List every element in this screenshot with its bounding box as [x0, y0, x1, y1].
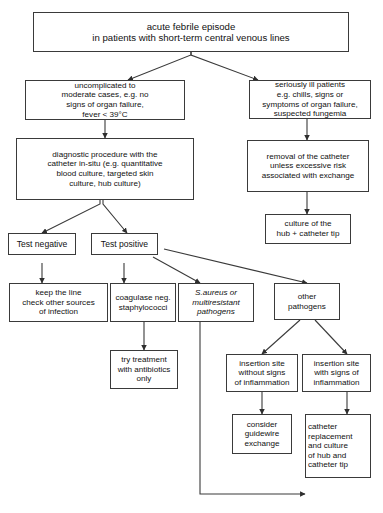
- node-consider-guidewire-exchange: consider guidewire exchange: [232, 414, 292, 454]
- node-uncomplicated-moderate: uncomplicated to moderate cases, e.g. no…: [25, 80, 185, 120]
- node-keep-the-line: keep the line check other sources of inf…: [9, 283, 108, 322]
- node-catheter-replacement-culture: catheter replacement and culture of hub …: [305, 414, 371, 478]
- node-test-positive: Test positive: [91, 233, 158, 255]
- node-insertion-site-with-inflammation: insertion site with signs of inflammatio…: [302, 354, 371, 392]
- node-catheter-removal: removal of the catheter unless excessive…: [247, 140, 369, 192]
- node-seriously-ill: seriously ill patients e.g. chills, sign…: [249, 80, 371, 119]
- node-other-pathogens: other pathogens: [274, 283, 340, 320]
- edge-diagnostic-testpositive: [103, 200, 127, 233]
- node-coagulase-negative-staph: coagulase neg. staphylococci: [110, 283, 176, 322]
- edge-testpositive-saureus: [153, 257, 200, 283]
- edge-saureus-replacement: [200, 322, 305, 494]
- edge-diagnostic-testnegative: [42, 200, 100, 233]
- edge-testpositive-otherpath: [164, 249, 307, 283]
- edge-root-uncomplicated: [128, 52, 191, 80]
- node-try-treatment-antibiotics: try treatment with antibiotics only: [110, 350, 178, 389]
- node-saureus-multiresistant: S.aureus or multiresistant pathogens: [178, 283, 254, 322]
- node-acute-febrile-episode: acute febrile episode in patients with s…: [33, 12, 349, 52]
- node-culture-hub-tip: culture of the hub + catheter tip: [265, 214, 351, 244]
- edge-root-seriouslyill: [191, 52, 258, 80]
- node-diagnostic-procedure: diagnostic procedure with the catheter i…: [16, 138, 194, 200]
- node-test-negative: Test negative: [8, 233, 76, 255]
- edge-otherpath-sitewithout: [262, 320, 300, 354]
- edge-otherpath-sitewith: [315, 320, 347, 354]
- node-insertion-site-without-inflammation: insertion site without signs of inflamma…: [226, 354, 298, 392]
- flowchart-canvas: acute febrile episode in patients with s…: [0, 0, 383, 513]
